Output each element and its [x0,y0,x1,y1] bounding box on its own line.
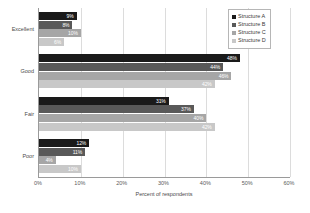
bar[interactable]: 9% [39,12,77,20]
bar-row: 40% [39,114,290,122]
bar-value-label: 11% [73,149,82,154]
bar-row: 48% [39,54,290,62]
bar-value-label: 8% [62,22,69,27]
legend-item[interactable]: Structure B [232,21,266,29]
x-tick-label: 40% [200,180,211,186]
x-axis-title: Percent of respondents [38,191,290,197]
legend-swatch-icon [232,31,236,35]
bar[interactable]: 11% [39,148,85,156]
bar-group: 48%44%46%42% [39,50,290,92]
bar-row: 11% [39,148,290,156]
bar-chart: 9%8%10%6%48%44%46%42%31%37%40%42%12%11%4… [0,0,310,213]
bar-value-label: 42% [202,82,212,87]
bar[interactable]: 10% [39,165,81,173]
bar[interactable]: 48% [39,54,240,62]
legend-swatch-icon [232,39,236,43]
chart-legend: Structure AStructure BStructure CStructu… [228,9,271,49]
y-axis-label-good: Good [21,68,34,74]
bar-value-label: 42% [202,124,212,129]
x-tick-label: 0% [34,180,42,186]
bar-value-label: 9% [67,14,74,19]
bar[interactable]: 31% [39,97,169,105]
legend-item[interactable]: Structure C [232,29,266,37]
legend-item[interactable]: Structure D [232,37,266,45]
bar-value-label: 10% [68,166,78,171]
bar-value-label: 40% [194,115,204,120]
bar-value-label: 44% [210,65,220,70]
bar[interactable]: 42% [39,123,215,131]
bar-row: 12% [39,139,290,147]
bar[interactable]: 10% [39,29,81,37]
y-axis-category-labels: ExcellentGoodFairPoor [0,8,34,178]
bar-value-label: 10% [68,31,78,36]
x-tick-label: 20% [116,180,127,186]
x-tick-label: 10% [74,180,85,186]
bar[interactable]: 37% [39,105,194,113]
x-axis-tick-labels: 0%10%20%30%40%50%60% [38,180,290,190]
bar-row: 46% [39,72,290,80]
y-axis-label-fair: Fair [25,111,34,117]
bar-row: 31% [39,97,290,105]
legend-label: Structure C [238,30,266,36]
bar-value-label: 48% [227,56,237,61]
bar-value-label: 46% [219,73,229,78]
bar[interactable]: 4% [39,156,56,164]
x-tick-label: 50% [242,180,253,186]
bar[interactable]: 6% [39,38,64,46]
bar-group: 31%37%40%42% [39,93,290,135]
bar-row: 44% [39,63,290,71]
bar-row: 42% [39,80,290,88]
legend-swatch-icon [232,23,236,27]
bar[interactable]: 42% [39,80,215,88]
bar-row: 10% [39,165,290,173]
legend-label: Structure A [238,14,265,20]
x-tick-label: 60% [283,180,294,186]
x-tick-label: 30% [158,180,169,186]
bar-group: 12%11%4%10% [39,135,290,177]
bar-row: 4% [39,156,290,164]
bar[interactable]: 40% [39,114,206,122]
gridline [290,8,291,177]
bar-value-label: 6% [54,40,61,45]
bar[interactable]: 46% [39,72,231,80]
y-axis-label-poor: Poor [22,153,34,159]
y-axis-label-excellent: Excellent [12,26,34,32]
legend-item[interactable]: Structure A [232,13,266,21]
bar-value-label: 31% [156,98,166,103]
bar-value-label: 37% [181,107,191,112]
bar-value-label: 12% [76,140,86,145]
legend-label: Structure D [238,38,266,44]
bar-value-label: 4% [46,158,53,163]
legend-swatch-icon [232,15,236,19]
bar[interactable]: 44% [39,63,223,71]
bar-row: 37% [39,105,290,113]
bar-row: 42% [39,123,290,131]
bar[interactable]: 8% [39,21,72,29]
bar[interactable]: 12% [39,139,89,147]
legend-label: Structure B [238,22,266,28]
